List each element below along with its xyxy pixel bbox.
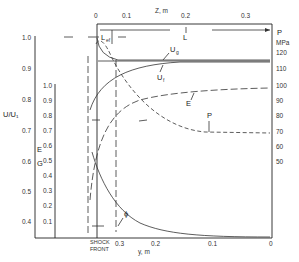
- Lef-dimension: L ef: [64, 30, 126, 44]
- svg-text:Z, m: Z, m: [155, 7, 168, 14]
- top-ticks: 0 0.1 0.2 0.3 Z, m: [94, 7, 250, 19]
- svg-text:L: L: [101, 33, 105, 42]
- svg-text:U: U: [170, 45, 175, 54]
- svg-text:0.1: 0.1: [122, 12, 131, 19]
- svg-text:90: 90: [276, 97, 284, 104]
- svg-text:0.6: 0.6: [22, 158, 31, 165]
- svg-text:E: E: [186, 99, 191, 108]
- svg-text:1.0: 1.0: [43, 82, 52, 89]
- svg-text:U: U: [157, 73, 162, 82]
- bottom-ticks: 0.3 0.2 0.1 0 y, m SHOCK FRONT: [90, 239, 273, 256]
- svg-text:SHOCK: SHOCK: [90, 239, 110, 245]
- svg-text:1.0: 1.0: [22, 34, 31, 41]
- curve-E: [90, 88, 270, 200]
- svg-text:60: 60: [276, 143, 284, 150]
- svg-text:0.3: 0.3: [115, 240, 124, 247]
- svg-text:0.1: 0.1: [43, 218, 52, 225]
- curve-P: [96, 41, 270, 133]
- svg-text:70: 70: [276, 128, 284, 135]
- svg-text:0.5: 0.5: [43, 157, 52, 164]
- L-dimension: L: [100, 27, 270, 42]
- svg-text:0.1: 0.1: [208, 240, 217, 247]
- left-outer-ticks: 1.0 0.9 0.8 0.7 0.6 0.5 0.4 U/U₁: [3, 34, 31, 225]
- svg-text:0.6: 0.6: [43, 142, 52, 149]
- svg-text:0.5: 0.5: [22, 188, 31, 195]
- svg-text:y, m: y, m: [138, 248, 150, 256]
- svg-text:0.3: 0.3: [43, 187, 52, 194]
- left-inner-ticks: 1.0 0.9 0.8 0.7 0.6 0.5 0.4 0.3 0.2 0.1 …: [37, 82, 52, 225]
- svg-text:L: L: [183, 33, 187, 42]
- chart: 0 0.1 0.2 0.3 Z, m L L ef P MPa 120 110 …: [0, 0, 299, 262]
- svg-text:MPa: MPa: [276, 39, 290, 46]
- svg-text:80: 80: [276, 112, 284, 119]
- svg-text:0: 0: [94, 12, 98, 19]
- svg-text:0.2: 0.2: [181, 12, 190, 19]
- svg-text:110: 110: [276, 65, 287, 72]
- svg-text:G: G: [37, 159, 43, 168]
- svg-text:ef: ef: [106, 37, 111, 43]
- svg-text:ϕ: ϕ: [124, 209, 128, 218]
- svg-text:0.3: 0.3: [241, 12, 250, 19]
- svg-text:0.8: 0.8: [43, 112, 52, 119]
- svg-text:g: g: [176, 49, 179, 55]
- svg-text:0.2: 0.2: [43, 202, 52, 209]
- svg-text:FRONT: FRONT: [90, 246, 110, 252]
- svg-text:0.7: 0.7: [22, 127, 31, 134]
- svg-text:0.9: 0.9: [22, 65, 31, 72]
- svg-text:0.4: 0.4: [43, 172, 52, 179]
- curve-Uf: [90, 62, 270, 110]
- svg-text:U/U₁: U/U₁: [3, 110, 19, 119]
- svg-text:0: 0: [269, 240, 273, 247]
- svg-text:0.9: 0.9: [43, 97, 52, 104]
- svg-text:0.2: 0.2: [151, 240, 160, 247]
- svg-text:P: P: [277, 28, 282, 37]
- svg-text:0.8: 0.8: [22, 96, 31, 103]
- svg-text:50: 50: [276, 158, 284, 165]
- svg-text:P: P: [207, 111, 212, 120]
- svg-text:120: 120: [276, 49, 287, 56]
- svg-text:f: f: [163, 77, 165, 83]
- svg-text:0.7: 0.7: [43, 127, 52, 134]
- svg-text:0.4: 0.4: [22, 218, 31, 225]
- svg-text:E: E: [37, 145, 42, 154]
- svg-text:100: 100: [276, 82, 287, 89]
- right-ticks: P MPa 120 110 100 90 80 70 60 50: [276, 28, 290, 165]
